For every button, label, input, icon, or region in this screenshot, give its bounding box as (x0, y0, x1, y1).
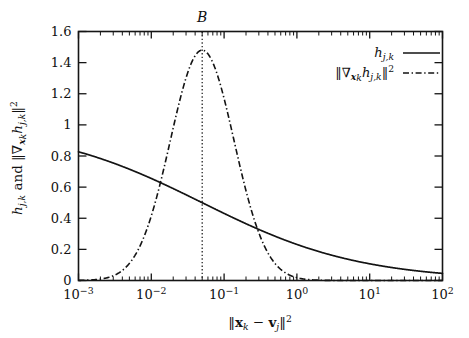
y-tick-label-3: 0.6 (51, 180, 72, 195)
y-tick-label-4: 0.8 (51, 149, 72, 164)
y-tick-label-5: 1 (63, 117, 71, 132)
svg-text:‖xk − vj‖2: ‖xk − vj‖2 (228, 313, 292, 332)
figure-container: 10−310−210−1100101102 00.20.40.60.811.21… (0, 0, 469, 338)
chart-svg: 10−310−210−1100101102 00.20.40.60.811.21… (0, 0, 469, 338)
x-tick-label-1: 10−2 (136, 285, 166, 302)
legend: hj,k ‖∇xkhj,k‖2 (335, 45, 440, 83)
y-tick-label-0: 0 (63, 273, 71, 288)
marker-label-B: B (196, 9, 207, 25)
y-tick-label-6: 1.2 (51, 86, 72, 101)
x-tick-label-5: 102 (431, 285, 454, 302)
series-line-grad-norm-sq (79, 50, 443, 280)
legend-label-grad-norm-sq: ‖∇xkhj,k‖2 (335, 63, 394, 83)
x-axis-label: ‖xk − vj‖2 (228, 313, 292, 332)
svg-text:hj,k and ‖∇xkhj,k‖2: hj,k and ‖∇xkhj,k‖2 (8, 101, 28, 215)
y-tick-label-2: 0.4 (51, 211, 72, 226)
x-axis-tick-labels: 10−310−210−1100101102 (63, 285, 453, 302)
legend-label-h-jk: hj,k (374, 45, 394, 62)
series-line-h-jk (79, 152, 443, 274)
y-axis-tick-labels: 00.20.40.60.811.21.41.6 (51, 24, 72, 288)
x-tick-label-2: 10−1 (209, 285, 239, 302)
y-tick-label-1: 0.2 (51, 242, 72, 257)
y-tick-label-8: 1.6 (51, 24, 72, 39)
y-tick-label-7: 1.4 (51, 55, 72, 70)
y-axis-label: hj,k and ‖∇xkhj,k‖2 (8, 101, 28, 215)
x-tick-label-4: 101 (358, 285, 381, 302)
x-tick-label-3: 100 (286, 285, 309, 302)
